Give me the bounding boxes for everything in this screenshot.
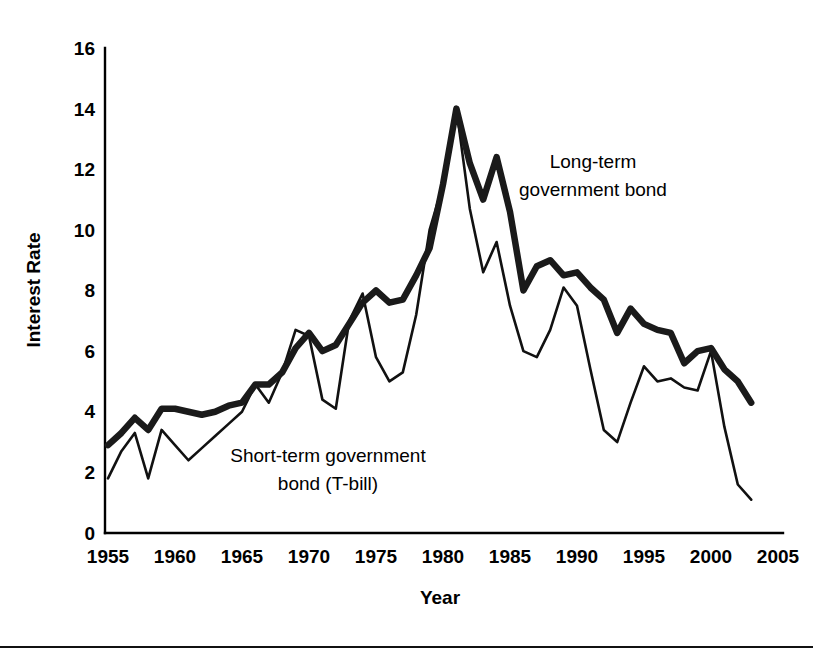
- annotation-short-term-government-bond: Short-term government bond (T-bill): [230, 445, 426, 494]
- x-tick-1970: 1970: [288, 546, 330, 567]
- x-tick-1975: 1975: [355, 546, 398, 567]
- x-tick-1990: 1990: [556, 546, 598, 567]
- chart-axes: [105, 48, 783, 533]
- x-tick-1960: 1960: [154, 546, 196, 567]
- x-tick-2005: 2005: [757, 546, 800, 567]
- interest-rate-line-chart: 16 14 12 10 8 6 4 2 0 1955 1960 1965 197…: [0, 0, 813, 654]
- x-axis-title: Year: [420, 587, 461, 608]
- y-tick-8: 8: [84, 280, 95, 301]
- y-tick-4: 4: [84, 401, 95, 422]
- series-line-short-term-government-bond: [108, 109, 751, 500]
- x-tick-1985: 1985: [489, 546, 532, 567]
- y-axis-tick-labels: 16 14 12 10 8 6 4 2 0: [74, 38, 96, 544]
- x-tick-1980: 1980: [422, 546, 464, 567]
- y-tick-12: 12: [74, 159, 95, 180]
- y-tick-14: 14: [74, 99, 96, 120]
- y-tick-10: 10: [74, 220, 95, 241]
- x-tick-1995: 1995: [623, 546, 666, 567]
- annotation-long-term-line-1: Long-term: [550, 151, 637, 172]
- series-line-long-term-government-bond: [108, 109, 751, 445]
- annotation-short-term-line-2: bond (T-bill): [278, 473, 378, 494]
- x-tick-1955: 1955: [87, 546, 130, 567]
- y-axis-title: Interest Rate: [23, 232, 44, 347]
- x-tick-1965: 1965: [221, 546, 264, 567]
- footer-divider-rule: [0, 646, 813, 648]
- y-tick-16: 16: [74, 38, 95, 59]
- annotation-long-term-government-bond: Long-term government bond: [519, 151, 667, 200]
- annotation-long-term-line-2: government bond: [519, 179, 667, 200]
- x-tick-2000: 2000: [690, 546, 732, 567]
- annotation-short-term-line-1: Short-term government: [230, 445, 426, 466]
- y-tick-2: 2: [84, 462, 95, 483]
- x-axis-tick-labels: 1955 1960 1965 1970 1975 1980 1985 1990 …: [87, 546, 800, 567]
- y-tick-6: 6: [84, 341, 95, 362]
- y-tick-0: 0: [84, 523, 95, 544]
- interest-rate-figure: 16 14 12 10 8 6 4 2 0 1955 1960 1965 197…: [0, 0, 813, 654]
